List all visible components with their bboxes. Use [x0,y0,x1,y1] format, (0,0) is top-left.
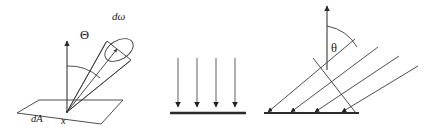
theta-upper-label: Θ [80,28,89,42]
cone-direction-arrow [67,49,117,112]
normal-incidence-panel [170,58,246,113]
solid-angle-panel: Θ dω dA x [17,10,137,126]
domega-label: dω [112,10,126,22]
point-x-label: x [60,115,66,126]
cone-edge-ray-lower [67,61,130,112]
incident-ray-oblique-3 [315,56,399,112]
oblique-incidence-panel: θ [264,6,418,113]
figure-root: Θ dω dA x [0,0,425,135]
cone-edge-ray-upper [67,42,106,112]
theta-lower-label: θ [331,41,337,55]
figure-canvas: Θ dω dA x [0,0,425,135]
origin-point-marker [66,111,68,113]
dA-label: dA [31,113,43,124]
incident-ray-oblique-1 [268,39,355,112]
incident-ray-oblique-4 [342,66,418,112]
central-ray-through-normal [313,58,356,113]
